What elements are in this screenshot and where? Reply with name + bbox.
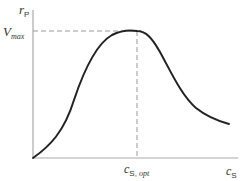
rate-curve bbox=[33, 31, 229, 158]
cs-opt-sub2: opt bbox=[139, 169, 149, 178]
cs-opt-sub: S, bbox=[129, 169, 137, 178]
y-axis-label: rP bbox=[19, 3, 29, 19]
vmax-label-sub: max bbox=[11, 32, 24, 41]
vmax-label-main: V bbox=[3, 24, 11, 39]
y-axis-label-sub: P bbox=[24, 10, 29, 19]
chart-canvas bbox=[0, 0, 247, 181]
x-axis-label: cS bbox=[226, 165, 237, 180]
x-tick-label-cs-opt: cS,opt bbox=[124, 163, 149, 178]
x-axis-label-sub: S bbox=[231, 171, 236, 180]
vmax-label: Vmax bbox=[3, 25, 24, 41]
